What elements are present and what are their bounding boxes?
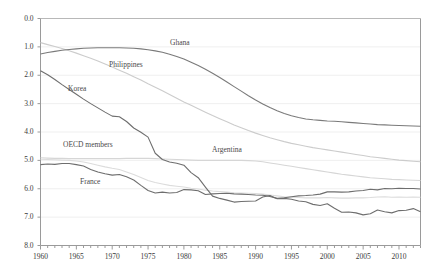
series-label-oecd-members: OECD members (63, 140, 113, 149)
plot-area (0, 0, 437, 274)
x-tick-label: 1990 (239, 252, 273, 261)
series-label-korea: Korea (68, 84, 86, 93)
series-line-ghana (41, 48, 421, 127)
x-tick-label: 1980 (167, 252, 201, 261)
x-tick-label: 1995 (274, 252, 308, 261)
x-tick-label: 1975 (131, 252, 165, 261)
y-tick-label: 5.0 (8, 155, 34, 164)
x-tick-label: 2000 (310, 252, 344, 261)
x-tick-label: 1960 (24, 252, 58, 261)
y-tick-label: 6.0 (8, 184, 34, 193)
y-tick-label: 8.0 (8, 241, 34, 250)
y-tick-label: 3.0 (8, 99, 34, 108)
x-tick-label: 2005 (346, 252, 380, 261)
series-label-philippines: Philippines (109, 60, 143, 69)
y-tick-label: 4.0 (8, 127, 34, 136)
x-tick-label: 2010 (382, 252, 416, 261)
line-chart: 0.01.02.03.04.05.06.07.08.0 196019651970… (0, 0, 437, 274)
y-tick-label: 2.0 (8, 70, 34, 79)
series-label-ghana: Ghana (170, 38, 190, 47)
y-tick-label: 1.0 (8, 42, 34, 51)
x-tick-label: 1985 (203, 252, 237, 261)
y-tick-label: 7.0 (8, 212, 34, 221)
series-label-france: France (80, 177, 100, 186)
series-label-argentina: Argentina (212, 145, 242, 154)
x-tick-label: 1970 (95, 252, 129, 261)
y-tick-label: 0.0 (8, 14, 34, 23)
x-tick-label: 1965 (59, 252, 93, 261)
